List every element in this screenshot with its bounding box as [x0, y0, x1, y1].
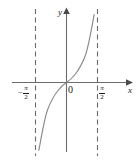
y-axis: [63, 8, 70, 153]
x-tick-label-pi-over-2: π 2: [99, 85, 105, 101]
tangent-function-figure: y x 0 − π 2 π 2: [0, 0, 140, 164]
fraction-numerator: π: [99, 85, 105, 92]
graph-canvas: [0, 0, 140, 164]
fraction-denominator: 2: [23, 94, 29, 101]
x-axis-label: x: [128, 86, 132, 95]
fraction-numerator: π: [23, 85, 29, 92]
fraction-denominator: 2: [99, 94, 105, 101]
fraction-pi-over-2: π 2: [23, 85, 29, 101]
fraction-pi-over-2: π 2: [99, 85, 105, 101]
x-tick-label-neg-pi-over-2: − π 2: [18, 85, 29, 101]
origin-label: 0: [68, 85, 73, 95]
y-axis-label: y: [58, 8, 62, 17]
minus-sign: −: [18, 89, 23, 98]
